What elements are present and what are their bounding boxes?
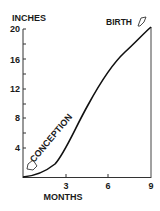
birth-label: BIRTH: [106, 17, 132, 27]
y-tick-label-16: 16: [10, 55, 20, 65]
y-tick-label-20: 20: [10, 24, 20, 34]
y-tick-label-12: 12: [10, 84, 20, 94]
y-tick-label-8: 8: [15, 113, 20, 123]
y-tick-label-4: 4: [15, 143, 20, 153]
x-tick-label-6: 6: [105, 181, 110, 191]
y-axis-label: INCHES: [12, 13, 46, 23]
x-tick-label-9: 9: [148, 181, 153, 191]
x-tick-label-3: 3: [63, 181, 68, 191]
growth-chart: INCHES 20 16 12 8 4 3 6 9 MONTHS CONCEPT…: [0, 0, 160, 211]
birth-arrow-icon: [138, 17, 146, 26]
x-axis-label: MONTHS: [44, 192, 83, 202]
conception-label: CONCEPTION: [28, 112, 74, 164]
